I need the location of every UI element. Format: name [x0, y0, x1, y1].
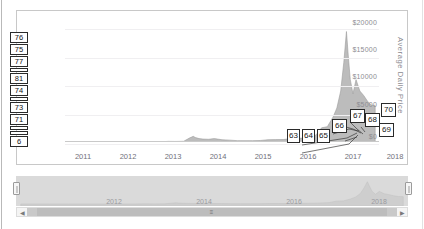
stack-label-71[interactable]: 71: [10, 114, 28, 125]
callout-68[interactable]: 68: [365, 113, 380, 127]
stack-label-73[interactable]: 73: [10, 102, 28, 113]
stack-label-81[interactable]: 81: [10, 73, 28, 84]
stack-label-spacer-0[interactable]: [10, 126, 28, 130]
callout-63[interactable]: 63: [287, 129, 300, 143]
x-axis-line: [65, 141, 379, 142]
callout-66[interactable]: 66: [332, 119, 347, 133]
navigator-left-handle[interactable]: [13, 182, 20, 195]
y-tick-15000: $15000: [352, 46, 377, 53]
callout-69[interactable]: 69: [379, 123, 394, 137]
gridline-10000: [65, 86, 379, 87]
stack-label-74[interactable]: 74: [10, 85, 28, 96]
x-tick-2014: 2014: [210, 152, 227, 161]
nav-tick-2012: 2012: [106, 198, 122, 205]
stack-label-spacer-1[interactable]: [10, 131, 28, 135]
handle-grip-icon-right: [408, 186, 409, 193]
y-tick-5000: $5000: [357, 101, 377, 108]
x-tick-2017: 2017: [345, 152, 362, 161]
horizontal-scrollbar[interactable]: ≡ ◀ ▶: [16, 207, 408, 217]
handle-grip-icon: [16, 186, 17, 193]
stack-label-6[interactable]: 6: [10, 136, 28, 147]
gridline-0: [65, 144, 379, 145]
callout-65[interactable]: 65: [317, 129, 330, 143]
page-border-left: [1, 0, 2, 229]
stack-label-75[interactable]: 75: [10, 44, 28, 55]
cutoff-header-text: [60, 0, 350, 6]
stack-label-77[interactable]: 77: [10, 56, 28, 67]
screenshot-root: $20000 $15000 $10000 $5000 $0 Average Da…: [0, 0, 424, 229]
gridline-20000: [65, 29, 379, 30]
y-tick-20000: $20000: [352, 19, 377, 26]
y-tick-0: $0: [369, 133, 377, 140]
x-tick-2015: 2015: [255, 152, 272, 161]
callout-70[interactable]: 70: [381, 103, 396, 117]
scroll-right-arrow-icon[interactable]: ▶: [397, 208, 407, 216]
y-tick-10000: $10000: [352, 73, 377, 80]
stack-label-spacer-3[interactable]: [10, 68, 28, 72]
page-border-right: [422, 0, 423, 229]
scrollbar-grip-icon: ≡: [210, 209, 215, 215]
callout-67[interactable]: 67: [350, 109, 365, 123]
stack-label-spacer-6[interactable]: [10, 97, 28, 101]
chart-panel: $20000 $15000 $10000 $5000 $0 Average Da…: [16, 10, 408, 165]
range-navigator[interactable]: 2012 2014 2016 2018: [16, 176, 408, 206]
gridline-15000: [65, 58, 379, 59]
x-tick-2018: 2018: [387, 152, 404, 161]
nav-tick-2018: 2018: [371, 198, 387, 205]
x-tick-2016: 2016: [300, 152, 317, 161]
stack-label-76[interactable]: 76: [10, 32, 28, 43]
x-tick-2011: 2011: [75, 152, 91, 161]
x-tick-2012: 2012: [120, 152, 137, 161]
nav-tick-2014: 2014: [196, 198, 212, 205]
x-tick-2013: 2013: [165, 152, 182, 161]
scrollbar-track[interactable]: ≡: [27, 208, 397, 216]
gridline-5000: [65, 115, 379, 116]
navigator-right-handle[interactable]: [405, 182, 412, 195]
scroll-left-arrow-icon[interactable]: ◀: [17, 208, 27, 216]
nav-tick-2016: 2016: [286, 198, 302, 205]
callout-64[interactable]: 64: [302, 129, 315, 143]
scrollbar-thumb[interactable]: ≡: [37, 208, 387, 216]
y-axis-title: Average Daily Price: [396, 37, 405, 114]
